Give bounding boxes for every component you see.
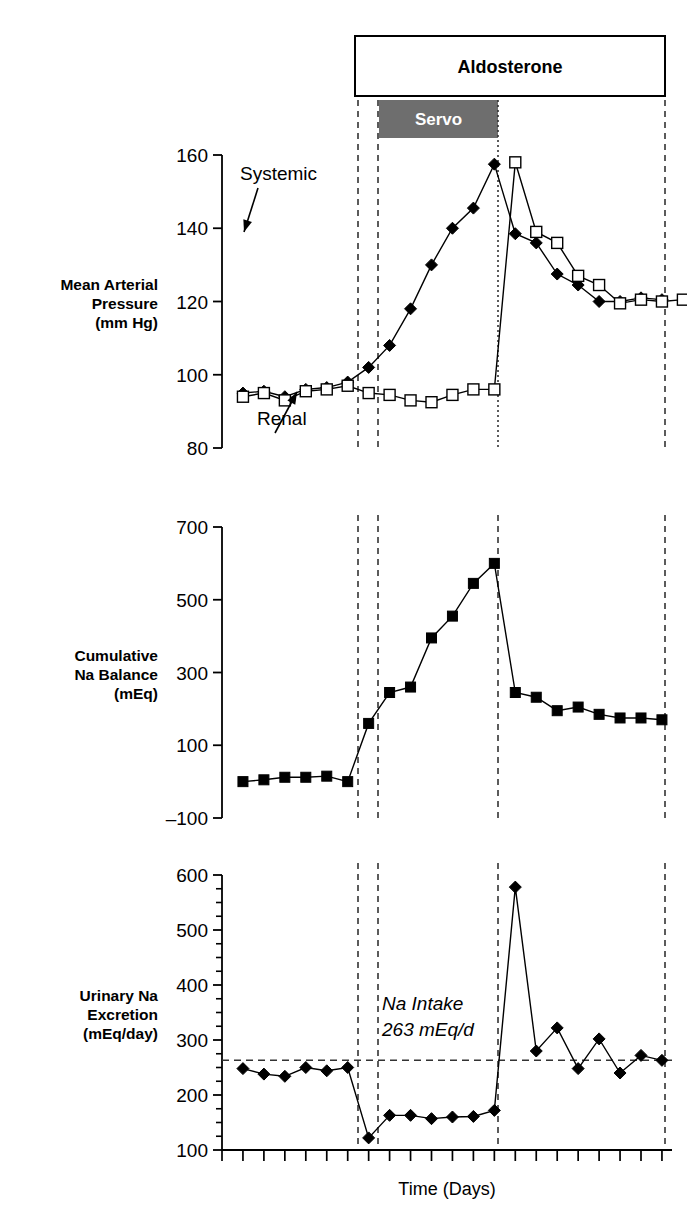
treatment-box-group: Aldosterone: [355, 36, 665, 96]
data-point: [279, 1070, 291, 1082]
data-point: [426, 259, 438, 271]
data-point: [594, 709, 604, 719]
data-point: [489, 384, 500, 395]
data-point: [530, 237, 542, 249]
data-point: [447, 611, 457, 621]
data-point: [489, 558, 499, 568]
data-point: [259, 775, 269, 785]
data-point: [426, 397, 437, 408]
data-point: [636, 713, 646, 723]
data-point: [531, 226, 542, 237]
y-axis-label-line: Cumulative: [74, 647, 158, 664]
y-axis-label-line: Mean Arterial: [60, 276, 158, 293]
data-point: [594, 280, 605, 291]
data-point: [446, 1111, 458, 1123]
y-tick-label: 200: [176, 1085, 208, 1106]
na-intake-label-line: 263 mEq/d: [381, 1019, 475, 1040]
y-tick-label: 80: [187, 438, 208, 459]
servo-label: Servo: [415, 110, 462, 129]
y-tick-label: 120: [176, 292, 208, 313]
panel-mean-arterial-pressure: 80100120140160SystemicRenalMean Arterial…: [60, 145, 687, 459]
figure-root: Aldosterone Servo 80100120140160Systemic…: [0, 0, 687, 1212]
y-tick-label: 600: [176, 865, 208, 886]
y-axis-label-line: (mm Hg): [95, 314, 158, 331]
y-tick-label: 100: [176, 365, 208, 386]
data-point: [509, 881, 521, 893]
y-axis-label-line: (mEq/day): [83, 1025, 158, 1042]
data-point: [280, 772, 290, 782]
y-tick-label: 100: [176, 1140, 208, 1161]
data-point: [572, 1063, 584, 1075]
series-markers-cumulative-na-balance: [238, 558, 667, 786]
data-point: [468, 384, 479, 395]
data-point: [406, 682, 416, 692]
data-point: [656, 296, 667, 307]
annotation-systemic: Systemic: [240, 163, 317, 184]
y-axis-label-line: Excretion: [87, 1006, 158, 1023]
data-point: [238, 777, 248, 787]
y-tick-label: 140: [176, 218, 208, 239]
data-point: [301, 772, 311, 782]
series-markers-renal: [237, 157, 687, 408]
data-point: [385, 688, 395, 698]
annotation-arrow-head: [243, 219, 252, 232]
data-point: [447, 389, 458, 400]
data-point: [657, 715, 667, 725]
data-point: [510, 688, 520, 698]
data-point: [237, 391, 248, 402]
data-point: [342, 380, 353, 391]
y-axis-label-line: (mEq): [114, 685, 158, 702]
panel-cumulative-na-balance: –100100300500700CumulativeNa Balance(mEq…: [74, 517, 667, 829]
data-point: [552, 237, 563, 248]
data-point: [405, 1109, 417, 1121]
data-point: [321, 1065, 333, 1077]
x-axis: [222, 1150, 672, 1161]
data-point: [342, 1062, 354, 1074]
data-point: [593, 1033, 605, 1045]
series-line-cumulative-na-balance: [243, 563, 662, 781]
y-axis-label-line: Urinary Na: [80, 987, 159, 1004]
y-tick-label: 500: [176, 920, 208, 941]
data-point: [258, 1068, 270, 1080]
data-point: [488, 158, 500, 170]
data-point: [363, 388, 374, 399]
data-point: [552, 706, 562, 716]
data-point: [405, 395, 416, 406]
data-point: [468, 578, 478, 588]
data-point: [636, 294, 647, 305]
data-point: [593, 296, 605, 308]
data-point: [467, 1110, 479, 1122]
data-point: [573, 702, 583, 712]
x-axis-label: Time (Days): [398, 1179, 495, 1199]
y-tick-label: 100: [176, 735, 208, 756]
y-tick-label: 400: [176, 975, 208, 996]
y-tick-label: –100: [166, 808, 208, 829]
na-intake-label-line: Na Intake: [382, 993, 463, 1014]
series-line-renal: [243, 162, 683, 402]
data-point: [300, 386, 311, 397]
y-tick-label: 500: [176, 590, 208, 611]
aldosterone-label: Aldosterone: [457, 57, 562, 77]
data-point: [322, 771, 332, 781]
data-point: [384, 389, 395, 400]
data-point: [615, 713, 625, 723]
annotation-renal: Renal: [257, 408, 307, 429]
y-tick-label: 700: [176, 517, 208, 538]
y-axis-label-line: Na Balance: [74, 666, 158, 683]
y-tick-label: 300: [176, 1030, 208, 1051]
data-point: [509, 228, 521, 240]
y-tick-label: 160: [176, 145, 208, 166]
data-point: [300, 1062, 312, 1074]
y-tick-label: 300: [176, 663, 208, 684]
data-point: [510, 157, 521, 168]
data-point: [426, 1113, 438, 1125]
data-point: [551, 268, 563, 280]
data-point: [405, 303, 417, 315]
data-point: [258, 388, 269, 399]
data-point: [321, 384, 332, 395]
data-point: [531, 692, 541, 702]
data-point: [364, 718, 374, 728]
y-axis-label-line: Pressure: [92, 295, 159, 312]
data-point: [656, 1054, 668, 1066]
data-point: [343, 777, 353, 787]
